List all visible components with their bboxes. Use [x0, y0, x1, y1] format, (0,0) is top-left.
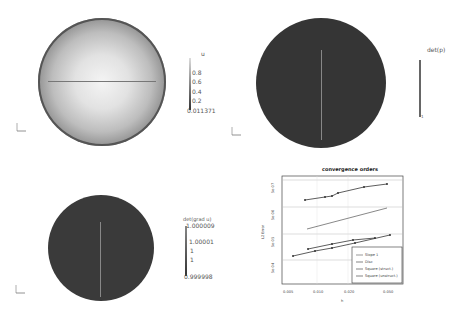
detgradu-colorbar-tick: 1 — [190, 247, 194, 254]
detgradu-colorbar — [185, 226, 187, 276]
detgradu-colorbar-tick: 1 — [190, 256, 194, 263]
u-colorbar-tick: 0.2 — [192, 97, 202, 104]
u-disc-centerline — [48, 81, 156, 82]
orientation-axes-icon — [229, 124, 243, 138]
y-axis-label: L2 Error — [261, 225, 265, 239]
u-colorbar-tick: 0.6 — [192, 78, 202, 85]
x-tick-label: 0.005 — [283, 290, 293, 294]
u-colorbar-tick: 0.8 — [192, 69, 202, 76]
legend-entry: Square (unstruct.) — [365, 274, 398, 278]
detp-colorbar — [419, 60, 421, 117]
panel-u-field: u 0.8 0.6 0.4 0.2 0.011371 — [0, 0, 235, 158]
y-tick-label: 5e-04 — [271, 263, 275, 273]
orientation-axes-icon — [13, 282, 27, 296]
detgradu-colorbar-tick: 1.00001 — [189, 238, 214, 245]
legend-entry: Disc — [365, 260, 373, 264]
detgradu-disc — [48, 195, 154, 301]
x-tick-label: 0.020 — [344, 290, 354, 294]
u-colorbar — [189, 58, 191, 110]
detp-colorbar-tick: 1 — [421, 114, 424, 119]
x-tick-label: 0.050 — [383, 290, 393, 294]
orientation-axes-icon — [14, 120, 28, 134]
detgradu-colorbar-tick: 1.000009 — [186, 222, 215, 229]
panel-detp-field: det(p) 1 — [236, 0, 471, 158]
panel-convergence-chart: convergence orders Slope 1 Disc Square (… — [250, 160, 471, 316]
legend-entry: Square (struct.) — [365, 267, 393, 271]
u-colorbar-title: u — [201, 50, 205, 57]
legend-entry: Slope 1 — [365, 253, 378, 257]
y-tick-label: 5e-07 — [271, 183, 275, 193]
detgradu-disc-centerline — [100, 222, 101, 297]
y-tick-label: 5e-06 — [271, 210, 275, 220]
detp-disc-centerline — [321, 50, 322, 140]
x-axis-label: h — [341, 299, 343, 303]
panel-detgradu-field: det(grad u) 1.000009 1.00001 1 1 0.99999… — [0, 160, 235, 316]
x-tick-label: 0.010 — [313, 290, 323, 294]
detp-colorbar-title: det(p) — [427, 46, 445, 53]
u-vector-disc — [38, 18, 166, 146]
y-tick-label: 5e-05 — [271, 237, 275, 247]
u-colorbar-tick: 0.011371 — [187, 107, 216, 114]
detgradu-colorbar-tick: 0.999998 — [184, 273, 213, 280]
u-colorbar-tick: 0.4 — [192, 88, 202, 95]
